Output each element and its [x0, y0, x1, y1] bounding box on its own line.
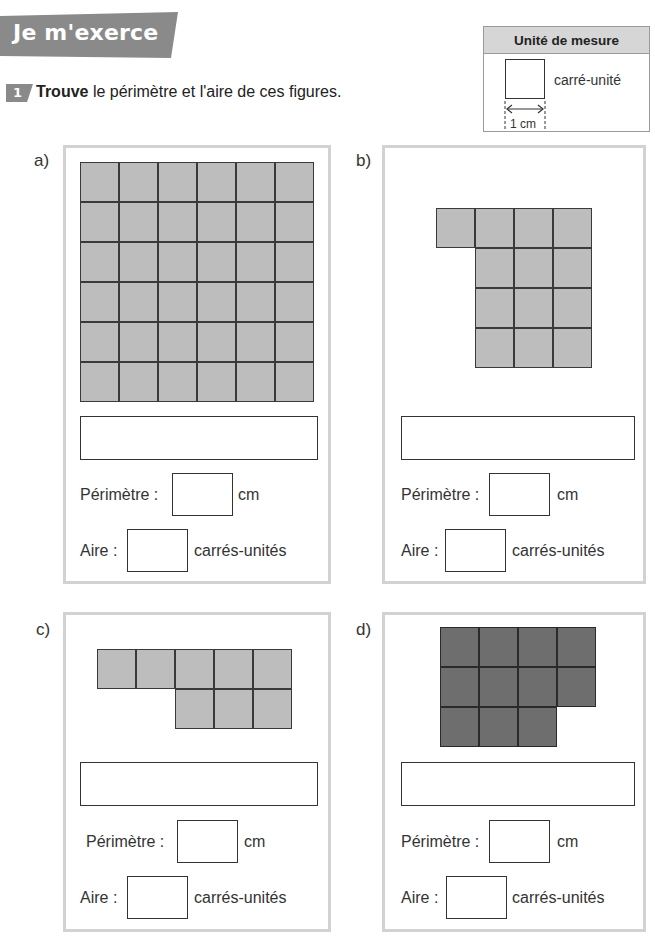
unit-square-cell — [440, 707, 479, 747]
unit-square-cell — [275, 362, 314, 402]
unit-square-cell — [514, 328, 553, 368]
unit-square-cell — [479, 627, 518, 667]
unit-square-cell — [119, 362, 158, 402]
unit-square-cell — [236, 242, 275, 282]
figure-c-letter: c) — [36, 620, 50, 640]
figure-b-area-input[interactable] — [445, 529, 506, 572]
unit-square-cell — [136, 649, 175, 689]
unit-square-cell — [197, 362, 236, 402]
unit-square-cell — [275, 162, 314, 202]
figure-a-perimeter-unit: cm — [238, 486, 259, 504]
unit-square-cell — [553, 208, 592, 248]
unit-square-cell — [514, 248, 553, 288]
figure-d-area-input[interactable] — [446, 876, 507, 919]
unit-square-cell — [518, 707, 557, 747]
section-title: Je m'exerce — [13, 20, 158, 45]
unit-square-cell — [214, 649, 253, 689]
figure-b-letter: b) — [356, 151, 371, 171]
figure-c-perimeter-unit: cm — [244, 833, 265, 851]
unit-square-cell — [158, 282, 197, 322]
unit-square-cell — [197, 322, 236, 362]
instruction-text: le périmètre et l'aire de ces figures. — [88, 83, 341, 100]
unit-square-cell — [479, 707, 518, 747]
figure-a-perimeter-label: Périmètre : — [80, 486, 158, 504]
unit-square-cell — [158, 322, 197, 362]
figure-b-area-label: Aire : — [401, 542, 438, 560]
unit-square-cell — [275, 202, 314, 242]
figure-b-card: Périmètre : cm Aire : carrés-unités — [382, 145, 646, 584]
figure-b-perimeter-label: Périmètre : — [401, 486, 479, 504]
unit-square-cell — [236, 282, 275, 322]
figure-a-area-label: Aire : — [80, 542, 117, 560]
unit-square-cell — [197, 162, 236, 202]
exercise-instruction: Trouve le périmètre et l'aire de ces fig… — [36, 83, 341, 101]
unit-square-cell — [158, 242, 197, 282]
unit-square-cell — [553, 288, 592, 328]
figure-d-perimeter-unit: cm — [557, 833, 578, 851]
unit-square-cell — [80, 282, 119, 322]
figure-c-perimeter-label: Périmètre : — [86, 833, 164, 851]
unit-square-cell — [236, 202, 275, 242]
unit-square-cell — [119, 162, 158, 202]
unit-dimension-label: 1 cm — [510, 117, 536, 131]
figure-c-perimeter-input[interactable] — [177, 820, 238, 863]
unit-square-cell — [557, 627, 596, 667]
unit-square-cell — [236, 162, 275, 202]
figure-a-perimeter-input[interactable] — [172, 473, 233, 516]
unit-square-cell — [80, 322, 119, 362]
unit-square-cell — [275, 242, 314, 282]
figure-d-perimeter-input[interactable] — [489, 820, 550, 863]
figure-c-answer-box[interactable] — [80, 762, 318, 806]
figure-d-letter: d) — [356, 620, 371, 640]
unit-square-cell — [158, 162, 197, 202]
unit-square-cell — [175, 689, 214, 729]
figure-a-answer-box[interactable] — [80, 416, 318, 460]
unit-square-cell — [475, 328, 514, 368]
instruction-verb: Trouve — [36, 83, 88, 100]
figure-b-answer-box[interactable] — [401, 416, 635, 460]
figure-a-area-input[interactable] — [127, 529, 188, 572]
unit-square-cell — [479, 667, 518, 707]
unit-square-cell — [518, 627, 557, 667]
unit-square-cell — [97, 649, 136, 689]
figure-d-card: Périmètre : cm Aire : carrés-unités — [382, 612, 646, 932]
unit-square-cell — [436, 208, 475, 248]
unit-square-cell — [253, 689, 292, 729]
unit-square-cell — [475, 208, 514, 248]
figure-a-letter: a) — [34, 151, 49, 171]
unit-square-cell — [518, 667, 557, 707]
unit-square-cell — [475, 248, 514, 288]
figure-c-area-unit: carrés-unités — [194, 889, 286, 907]
unit-square-cell — [197, 242, 236, 282]
unit-square-cell — [440, 667, 479, 707]
unit-square-cell — [553, 328, 592, 368]
unit-box-title: Unité de mesure — [484, 27, 649, 54]
unit-square-cell — [275, 322, 314, 362]
unit-square-cell — [119, 202, 158, 242]
unit-square-cell — [119, 282, 158, 322]
exercise-number-badge: 1 — [6, 84, 33, 102]
unit-square-cell — [197, 202, 236, 242]
figure-c-area-label: Aire : — [80, 889, 117, 907]
unit-square-cell — [158, 202, 197, 242]
unit-square-cell — [253, 649, 292, 689]
unit-square-cell — [475, 288, 514, 328]
unit-square-cell — [197, 282, 236, 322]
unit-square-cell — [175, 649, 214, 689]
figure-d-area-unit: carrés-unités — [512, 889, 604, 907]
figure-c-area-input[interactable] — [127, 876, 188, 919]
unit-square-icon — [505, 59, 545, 99]
figure-a-area-unit: carrés-unités — [194, 542, 286, 560]
figure-c-card: Périmètre : cm Aire : carrés-unités — [63, 612, 331, 932]
unit-square-cell — [553, 248, 592, 288]
unit-square-cell — [80, 162, 119, 202]
unit-square-cell — [214, 689, 253, 729]
unit-square-cell — [236, 322, 275, 362]
figure-d-answer-box[interactable] — [401, 762, 635, 806]
unit-square-cell — [80, 242, 119, 282]
unit-square-cell — [80, 202, 119, 242]
figure-b-perimeter-input[interactable] — [489, 473, 550, 516]
figure-b-perimeter-unit: cm — [557, 486, 578, 504]
figure-d-area-label: Aire : — [401, 889, 438, 907]
figure-b-area-unit: carrés-unités — [512, 542, 604, 560]
